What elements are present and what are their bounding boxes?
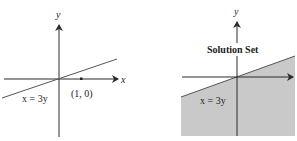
left-y-axis-label: y: [55, 9, 61, 20]
left-graph: y x x = 3y (1, 0): [2, 9, 126, 137]
solution-region: [181, 56, 295, 136]
solution-set-label: Solution Set: [207, 44, 259, 55]
left-x-axis-label: x: [120, 74, 126, 85]
right-y-axis-label: y: [233, 6, 239, 17]
left-line-label: x = 3y: [22, 93, 48, 104]
right-line-label: x = 3y: [200, 95, 226, 106]
diagram-canvas: y x x = 3y (1, 0) y Solution Set x = 3y: [0, 0, 297, 141]
right-graph: y Solution Set x = 3y: [181, 6, 295, 136]
point-label: (1, 0): [71, 88, 93, 100]
point-marker: [80, 78, 83, 81]
